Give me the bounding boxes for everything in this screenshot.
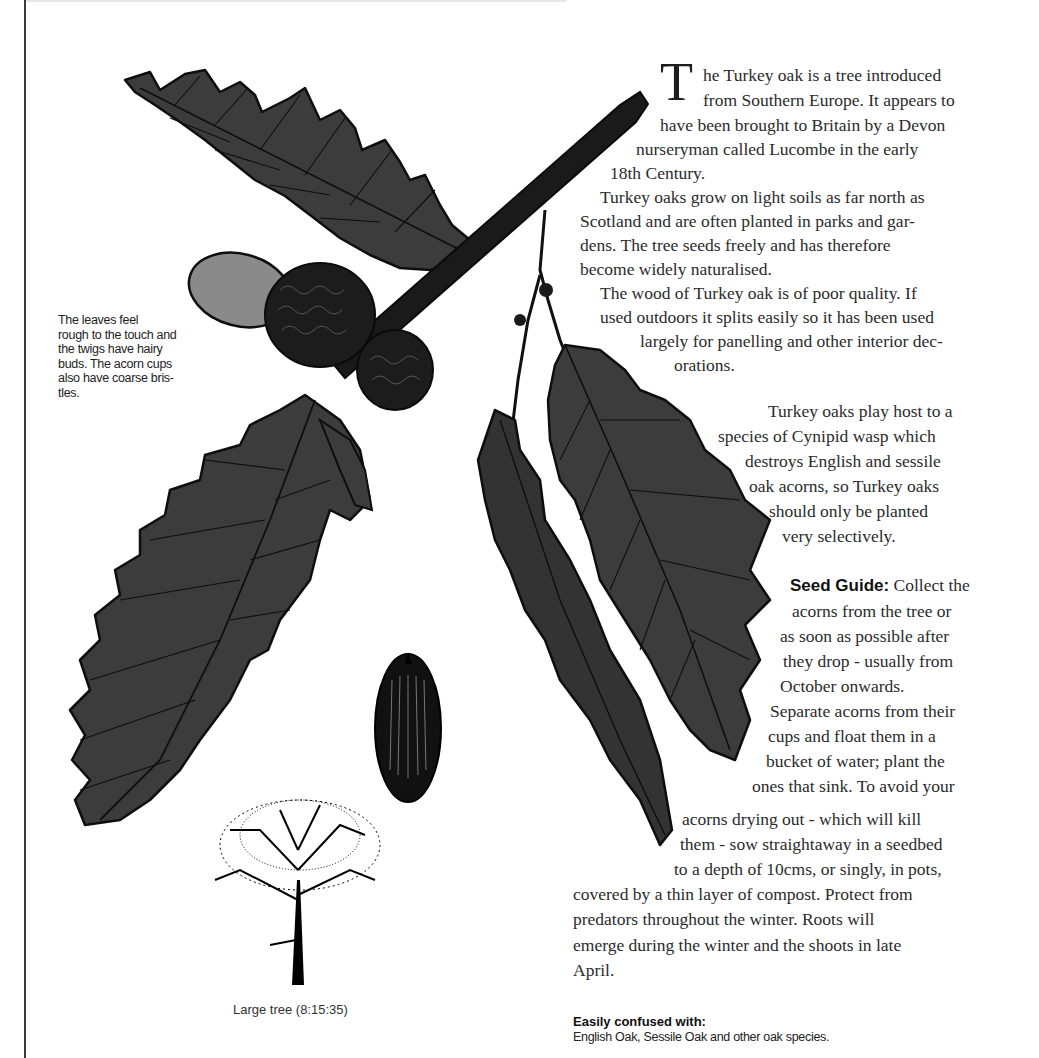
side-note-line: the twigs have hairy <box>58 342 228 357</box>
seed-guide-line: acorns from the tree or <box>792 600 951 622</box>
para2-line: become widely naturalised. <box>580 258 772 280</box>
seed-guide-line: Separate acorns from their <box>770 700 955 722</box>
para4-line: Turkey oaks play host to a <box>768 400 953 422</box>
para3-line: used outdoors it splits easily so it has… <box>600 306 934 328</box>
tree-caption: Large tree (8:15:35) <box>233 1002 348 1017</box>
intro-line: nurseryman called Lucombe in the early <box>636 138 918 160</box>
side-note-line: The leaves feel <box>58 313 228 328</box>
side-note-line: rough to the touch and <box>58 328 228 343</box>
seed-guide-line: covered by a thin layer of compost. Prot… <box>573 883 913 905</box>
seed-guide-line: October onwards. <box>780 675 904 697</box>
lower-left-leaf-icon <box>70 395 372 825</box>
seed-guide-line: them - sow straightaway in a seedbed <box>680 833 942 855</box>
seed-guide-line: they drop - usually from <box>783 650 953 672</box>
seed-guide-label: Seed Guide: <box>790 576 889 595</box>
seed-guide-line: as soon as possible after <box>780 625 949 647</box>
tree-silhouette-icon <box>215 800 380 985</box>
confused-heading: Easily confused with: <box>573 1014 706 1029</box>
seed-guide-line: bucket of water; plant the <box>766 750 945 772</box>
para2-line: dens. The tree seeds freely and has ther… <box>580 234 891 256</box>
para3-line: The wood of Turkey oak is of poor qualit… <box>600 282 917 304</box>
para4-line: destroys English and sessile <box>745 450 941 472</box>
intro-line: 18th Century. <box>610 162 705 184</box>
seed-guide-line: ones that sink. To avoid your <box>752 775 955 797</box>
side-note-line: buds. The acorn cups <box>58 357 228 372</box>
para4-line: should only be planted <box>769 500 928 522</box>
seed-guide-line: April. <box>573 959 614 981</box>
side-note-line: tles. <box>58 386 228 401</box>
para2-line: Turkey oaks grow on light soils as far n… <box>600 186 925 208</box>
seed-guide-line: acorns drying out - which will kill <box>682 808 921 830</box>
para2-line: Scotland and are often planted in parks … <box>580 210 915 232</box>
confused-text: English Oak, Sessile Oak and other oak s… <box>573 1030 829 1044</box>
side-note: The leaves feel rough to the touch and t… <box>58 313 228 400</box>
para4-line: very selectively. <box>782 525 896 547</box>
para4-line: oak acorns, so Turkey oaks <box>749 475 939 497</box>
drop-cap: T <box>660 58 693 106</box>
seed-guide-line: to a depth of 10cms, or singly, in pots, <box>674 858 942 880</box>
intro-line: have been brought to Britain by a Devon <box>660 114 945 136</box>
para4-line: species of Cynipid wasp which <box>718 425 936 447</box>
side-note-line: also have coarse bris- <box>58 371 228 386</box>
para3-line: orations. <box>674 354 735 376</box>
seed-guide-text: Collect the <box>889 575 970 595</box>
para3-line: largely for panelling and other interior… <box>640 330 943 352</box>
acorn-icon <box>375 652 441 802</box>
intro-line: from Southern Europe. It appears to <box>703 89 955 111</box>
seed-guide-line: cups and float them in a <box>768 725 936 747</box>
seed-guide-line: predators throughout the winter. Roots w… <box>573 908 874 930</box>
intro-line: he Turkey oak is a tree introduced <box>703 64 941 86</box>
seed-guide-line: emerge during the winter and the shoots … <box>573 934 901 956</box>
upper-leaf-icon <box>125 70 478 270</box>
seed-guide-first-line: Seed Guide: Collect the <box>790 574 970 597</box>
